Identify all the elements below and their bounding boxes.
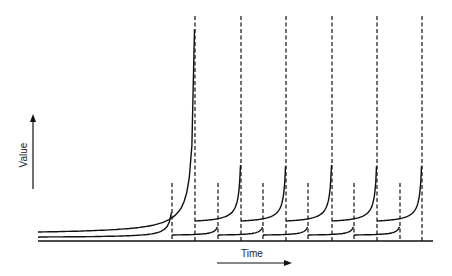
runaway-curve <box>38 29 195 232</box>
event-markers <box>172 16 422 241</box>
x-axis-label: Time <box>241 248 263 259</box>
runaway-curve <box>263 227 308 235</box>
runaway-curve <box>286 165 332 221</box>
runaway-curve <box>377 166 422 221</box>
runaway-curve <box>38 212 172 237</box>
diagram: Value Time <box>0 0 452 276</box>
curves <box>38 29 422 237</box>
x-axis-arrow <box>217 260 292 266</box>
y-axis-label: Value <box>18 142 29 167</box>
y-axis-arrow <box>30 114 36 189</box>
runaway-curve <box>218 227 263 235</box>
runaway-curve <box>308 227 354 235</box>
